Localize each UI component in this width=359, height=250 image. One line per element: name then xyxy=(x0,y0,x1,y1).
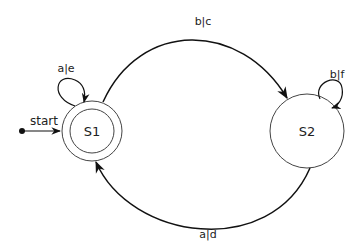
state-s1[interactable]: S1 xyxy=(62,101,122,161)
start-label: start xyxy=(30,114,58,128)
transition-label-a-e: a|e xyxy=(57,62,74,75)
transition-label-a-d: a|d xyxy=(199,228,216,241)
start-arrow: start xyxy=(19,114,60,134)
transition-s1-s2: b|c xyxy=(103,15,287,102)
transition-label-b-c: b|c xyxy=(195,15,212,28)
state-s1-label: S1 xyxy=(84,124,101,139)
state-s2[interactable]: S2 xyxy=(270,94,344,168)
transition-s1-s1: a|e xyxy=(57,62,84,106)
transition-label-b-f: b|f xyxy=(330,68,346,81)
transition-s2-s1: a|d xyxy=(96,162,310,241)
state-diagram: start S1 S2 a|e b|c b|f a|d xyxy=(0,0,359,250)
state-s2-label: S2 xyxy=(299,124,316,139)
